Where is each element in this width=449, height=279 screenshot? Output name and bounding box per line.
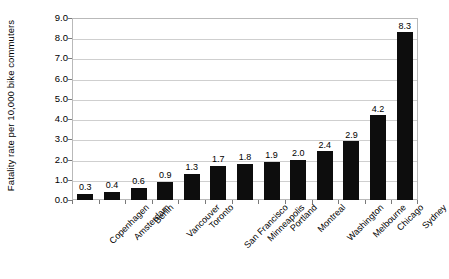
x-tick-label: Sydney (421, 203, 449, 231)
bar (210, 166, 226, 200)
bars-layer: 0.30.40.60.91.31.71.81.92.02.42.94.28.3 (72, 18, 418, 200)
bar (397, 32, 413, 200)
bar-value-label: 1.7 (212, 155, 225, 164)
bar (264, 162, 280, 200)
bar (370, 115, 386, 200)
bar (104, 192, 120, 200)
bar-value-label: 2.4 (319, 141, 332, 150)
bar-value-label: 8.3 (398, 22, 411, 31)
x-axis-labels: CopenhagenAmsterdamBerlinVancouverToront… (72, 203, 418, 279)
x-tick-label: Berlin (153, 203, 176, 226)
bar-group: 2.4 (312, 18, 339, 200)
y-axis-title-label: Fatality rate per 10,000 bike commuters (6, 19, 17, 190)
bar-group: 0.4 (99, 18, 126, 200)
y-tick-label: 6.0 (28, 74, 68, 84)
bar (290, 160, 306, 200)
bar-group: 4.2 (365, 18, 392, 200)
y-tick-label: 4.0 (28, 114, 68, 124)
bar-group: 2.9 (338, 18, 365, 200)
y-tick-label: 8.0 (28, 33, 68, 43)
bar-group: 0.3 (72, 18, 99, 200)
bar-value-label: 1.8 (239, 153, 252, 162)
bar-value-label: 0.3 (79, 183, 92, 192)
bar-value-label: 0.6 (132, 177, 145, 186)
y-tick-label: 7.0 (28, 54, 68, 64)
y-tick-label: 2.0 (28, 155, 68, 165)
y-tick-label: 1.0 (28, 175, 68, 185)
bar (343, 141, 359, 200)
bar (157, 182, 173, 200)
y-axis-ticks: 9.08.07.06.05.04.03.02.01.00.0 (22, 18, 68, 200)
bar-group: 2.0 (285, 18, 312, 200)
bar-value-label: 2.0 (292, 149, 305, 158)
bar-group: 1.3 (178, 18, 205, 200)
y-axis-title: Fatality rate per 10,000 bike commuters (0, 0, 22, 210)
y-tick-label: 9.0 (28, 13, 68, 23)
bar-value-label: 1.3 (185, 163, 198, 172)
bar (317, 151, 333, 200)
bar-group: 1.8 (232, 18, 259, 200)
bar-value-label: 2.9 (345, 131, 358, 140)
bar-value-label: 1.9 (265, 151, 278, 160)
bar (184, 174, 200, 200)
y-tick-label: 5.0 (28, 94, 68, 104)
bar-value-label: 4.2 (372, 105, 385, 114)
bar-group: 1.7 (205, 18, 232, 200)
bar-group: 0.6 (125, 18, 152, 200)
y-tick-label: 0.0 (28, 195, 68, 205)
bar-value-label: 0.9 (159, 171, 172, 180)
bar-group: 8.3 (391, 18, 418, 200)
bar (131, 188, 147, 200)
x-tick-label: Montreal (316, 203, 347, 234)
bar-group: 1.9 (258, 18, 285, 200)
bar-value-label: 0.4 (106, 181, 119, 190)
bar-group: 0.9 (152, 18, 179, 200)
bar (237, 164, 253, 200)
y-tick-label: 3.0 (28, 135, 68, 145)
